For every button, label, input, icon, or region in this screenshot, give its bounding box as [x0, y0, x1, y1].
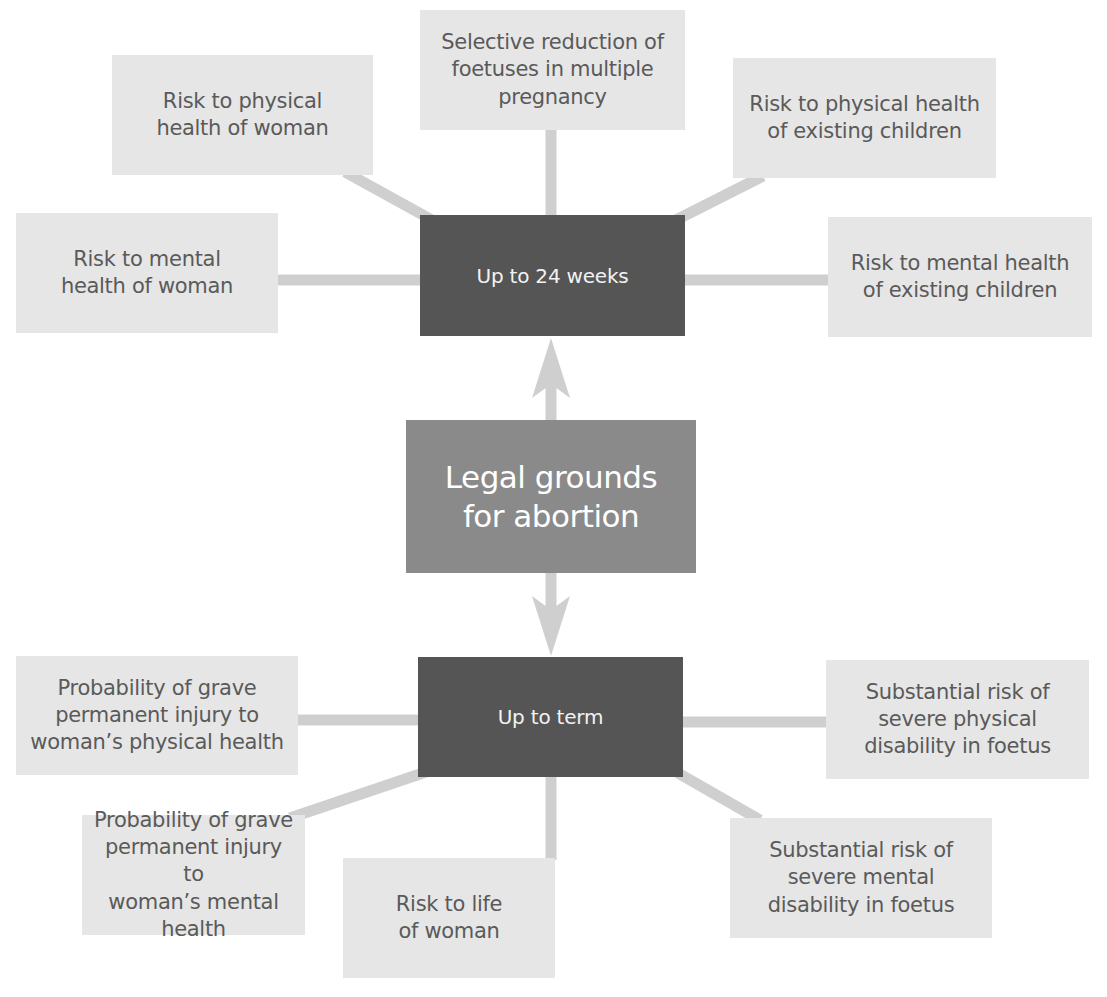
ground-label: Risk to physical health of existing chil… [749, 91, 979, 146]
connector-lower-mental-injury [290, 772, 426, 818]
ground-label: Risk to mental health of woman [61, 246, 233, 301]
legal-grounds-diagram: Risk to physical health of woman Selecti… [0, 0, 1107, 997]
ground-foetus-mental-disability: Substantial risk of severe mental disabi… [730, 818, 992, 938]
phase-up-to-24-weeks: Up to 24 weeks [420, 215, 685, 336]
ground-physical-health-children: Risk to physical health of existing chil… [733, 58, 996, 178]
ground-selective-reduction: Selective reduction of foetuses in multi… [420, 10, 685, 130]
phase-up-to-term: Up to term [418, 657, 683, 777]
ground-risk-to-life: Risk to life of woman [343, 858, 555, 978]
center-legal-grounds: Legal grounds for abortion [406, 420, 696, 573]
ground-foetus-physical-disability: Substantial risk of severe physical disa… [826, 660, 1089, 779]
ground-label: Risk to mental health of existing childr… [851, 250, 1069, 305]
ground-label: Substantial risk of severe mental disabi… [768, 837, 955, 919]
ground-mental-health-children: Risk to mental health of existing childr… [828, 217, 1092, 337]
ground-label: Selective reduction of foetuses in multi… [441, 29, 663, 111]
ground-label: Substantial risk of severe physical disa… [864, 679, 1051, 761]
connector-lower-mental-disability [678, 773, 760, 820]
ground-label: Probability of grave permanent injury to… [94, 807, 293, 943]
phase-label: Up to term [498, 705, 604, 729]
connector-upper-physical-children [676, 176, 763, 220]
ground-mental-health-woman: Risk to mental health of woman [16, 213, 278, 333]
connector-upper-physical-woman [345, 172, 432, 220]
ground-grave-injury-mental: Probability of grave permanent injury to… [82, 815, 305, 935]
ground-label: Risk to physical health of woman [156, 88, 328, 143]
ground-label: Probability of grave permanent injury to… [30, 675, 283, 757]
ground-grave-injury-physical: Probability of grave permanent injury to… [16, 656, 298, 775]
phase-label: Up to 24 weeks [476, 264, 628, 288]
ground-label: Risk to life of woman [396, 891, 502, 946]
center-label: Legal grounds for abortion [445, 458, 657, 536]
ground-physical-health-woman: Risk to physical health of woman [112, 55, 373, 175]
